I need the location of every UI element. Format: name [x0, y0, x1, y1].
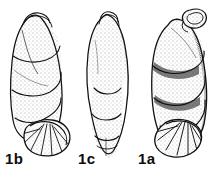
illustration-plate: 1b 1c 1a	[0, 0, 213, 171]
figure-label-1b: 1b	[5, 151, 24, 166]
plate-drawing	[0, 0, 213, 171]
figure-label-1a: 1a	[138, 151, 156, 166]
figure-label-1c: 1c	[78, 151, 96, 166]
